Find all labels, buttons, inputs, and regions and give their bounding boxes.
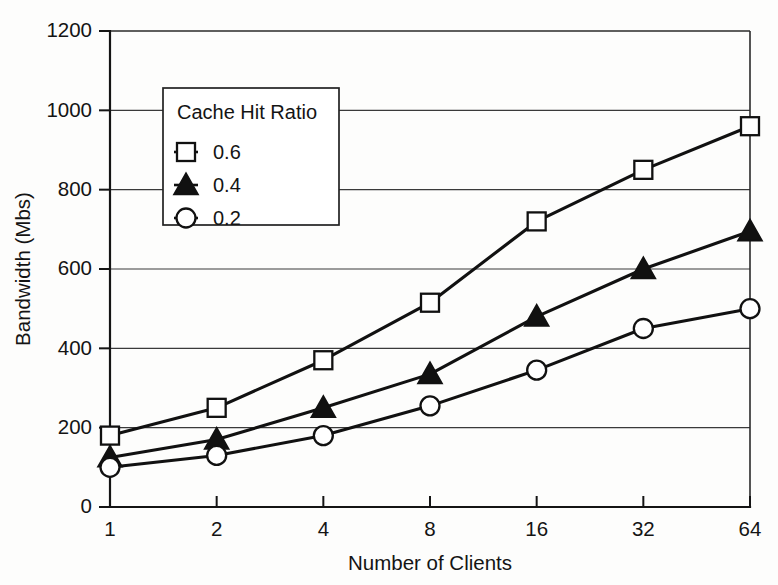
legend-title: Cache Hit Ratio bbox=[177, 101, 317, 123]
data-point-open-circle bbox=[421, 396, 440, 415]
legend-entry-label: 0.4 bbox=[213, 174, 241, 196]
series-line bbox=[110, 231, 750, 457]
y-tick-label: 600 bbox=[58, 256, 92, 279]
x-tick-label: 64 bbox=[739, 517, 762, 540]
x-tick-label: 1 bbox=[104, 517, 115, 540]
data-point-open-circle bbox=[527, 361, 546, 380]
data-point-open-square bbox=[314, 351, 332, 369]
y-axis-title: Bandwidth (Mbs) bbox=[11, 192, 34, 346]
series-0-4 bbox=[98, 220, 761, 467]
data-point-open-square bbox=[208, 399, 226, 417]
data-point-open-square bbox=[101, 427, 119, 445]
legend-marker-open-square bbox=[177, 143, 195, 161]
data-point-open-circle bbox=[314, 426, 333, 445]
x-axis-title: Number of Clients bbox=[348, 551, 512, 574]
x-tick-label: 32 bbox=[632, 517, 655, 540]
y-tick-label: 0 bbox=[81, 494, 92, 517]
y-tick-label: 1000 bbox=[46, 98, 92, 121]
x-tick-labels-group: 1248163264 bbox=[104, 517, 761, 540]
y-tick-labels-group: 020040060080010001200 bbox=[46, 18, 92, 517]
data-point-filled-triangle bbox=[738, 220, 761, 241]
x-tick-label: 8 bbox=[424, 517, 435, 540]
data-point-open-circle bbox=[101, 458, 120, 477]
data-point-open-circle bbox=[634, 319, 653, 338]
data-point-open-circle bbox=[207, 446, 226, 465]
data-point-filled-triangle bbox=[525, 305, 548, 326]
bandwidth-line-chart: 020040060080010001200 1248163264 Bandwid… bbox=[0, 0, 778, 585]
data-point-filled-triangle bbox=[632, 258, 655, 279]
data-point-open-square bbox=[634, 161, 652, 179]
series-0-2 bbox=[101, 299, 760, 477]
y-tick-label: 200 bbox=[58, 415, 92, 438]
legend-entry-label: 0.6 bbox=[213, 141, 241, 163]
x-tick-label: 4 bbox=[318, 517, 329, 540]
legend-entry-label: 0.2 bbox=[213, 207, 241, 229]
x-tick-label: 16 bbox=[525, 517, 548, 540]
data-point-open-square bbox=[741, 117, 759, 135]
data-point-open-square bbox=[421, 294, 439, 312]
series-line bbox=[110, 309, 750, 468]
y-tick-label: 1200 bbox=[46, 18, 92, 41]
legend-marker-open-circle bbox=[177, 209, 196, 228]
y-tick-label: 800 bbox=[58, 177, 92, 200]
chart-figure: 020040060080010001200 1248163264 Bandwid… bbox=[0, 0, 778, 585]
y-tick-label: 400 bbox=[58, 336, 92, 359]
chart-legend: Cache Hit Ratio 0.60.40.2 bbox=[163, 88, 339, 229]
x-tick-marks-group bbox=[110, 496, 750, 507]
x-tick-label: 2 bbox=[211, 517, 222, 540]
data-point-open-square bbox=[528, 212, 546, 230]
data-point-filled-triangle bbox=[418, 363, 441, 384]
data-point-open-circle bbox=[741, 299, 760, 318]
